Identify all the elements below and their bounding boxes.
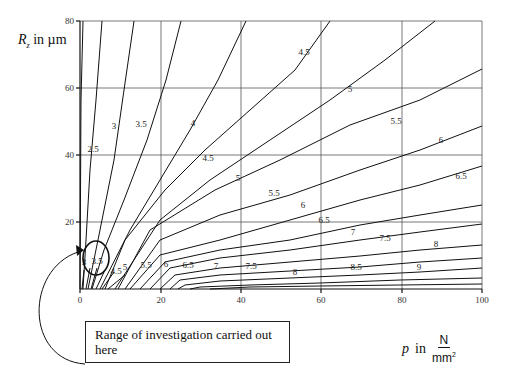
svg-text:6: 6: [164, 259, 169, 269]
annotation-box: Range of investigation carried out here: [85, 321, 290, 363]
svg-text:9: 9: [417, 262, 422, 272]
unit-fraction: N mm2: [432, 333, 456, 365]
svg-text:3.5: 3.5: [135, 119, 147, 129]
svg-text:6: 6: [439, 135, 444, 145]
x-tick-80: 80: [398, 295, 408, 305]
svg-text:8: 8: [434, 239, 439, 249]
y-tick-80: 80: [65, 16, 75, 26]
svg-text:8.5: 8.5: [350, 262, 362, 272]
svg-text:4.5: 4.5: [110, 266, 122, 276]
svg-text:6: 6: [301, 200, 306, 210]
svg-text:6.5: 6.5: [455, 171, 467, 181]
svg-text:5: 5: [236, 173, 241, 183]
svg-text:7: 7: [214, 261, 219, 271]
svg-text:3.5: 3.5: [91, 256, 103, 266]
y-tick-40: 40: [65, 150, 75, 160]
svg-text:4.5: 4.5: [202, 153, 214, 163]
svg-text:2.5: 2.5: [87, 144, 99, 154]
x-tick-60: 60: [317, 295, 327, 305]
svg-text:5.5: 5.5: [390, 116, 402, 126]
y-axis-label: Rz in µm: [18, 32, 67, 50]
axes: [76, 21, 482, 293]
x-tick-20: 20: [157, 295, 167, 305]
svg-text:5: 5: [123, 262, 128, 272]
svg-text:7.5: 7.5: [379, 233, 391, 243]
svg-text:7.5: 7.5: [245, 261, 257, 271]
x-tick-0: 0: [78, 295, 83, 305]
x-tick-100: 100: [475, 295, 489, 305]
y-tick-60: 60: [65, 83, 75, 93]
annotation-arrow: [39, 252, 85, 364]
y-tick-20: 20: [65, 217, 75, 227]
svg-text:5.5: 5.5: [140, 260, 152, 270]
svg-text:5: 5: [348, 84, 353, 94]
svg-text:8: 8: [293, 267, 298, 277]
svg-text:4: 4: [191, 118, 196, 128]
svg-text:6.5: 6.5: [182, 260, 194, 270]
svg-text:5.5: 5.5: [268, 188, 280, 198]
x-tick-40: 40: [237, 295, 247, 305]
svg-text:6.5: 6.5: [318, 215, 330, 225]
svg-text:4.5: 4.5: [298, 47, 310, 57]
svg-text:7: 7: [351, 227, 356, 237]
x-axis-label: p in N mm2: [402, 333, 456, 365]
svg-text:3: 3: [112, 121, 117, 131]
